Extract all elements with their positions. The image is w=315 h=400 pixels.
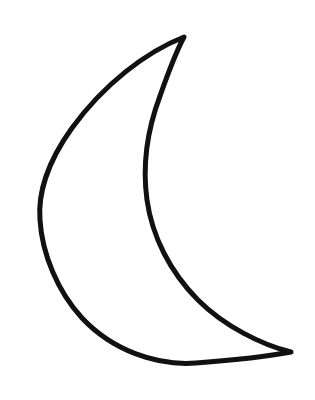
crescent-moon-illustration	[0, 0, 315, 400]
drawing-canvas: Hand-drawn crescent moon outline	[0, 0, 315, 400]
